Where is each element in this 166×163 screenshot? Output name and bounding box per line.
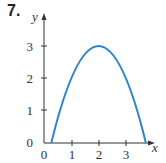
- parabola-curve: [51, 46, 146, 143]
- x-tick-label-3: 3: [123, 147, 130, 162]
- x-tick-label-2: 2: [96, 147, 103, 162]
- parabola-chart: 0 1 2 3 0 1 2 3 y x: [0, 0, 166, 163]
- y-axis-arrow-icon: [42, 13, 47, 20]
- x-tick-label-1: 1: [69, 147, 76, 162]
- y-axis-label: y: [30, 9, 38, 24]
- x-tick-label-0: 0: [41, 147, 48, 162]
- y-tick-label-1: 1: [27, 103, 34, 118]
- y-tick-label-2: 2: [27, 71, 34, 86]
- y-tick-label-3: 3: [27, 39, 34, 54]
- x-axis-label: x: [151, 140, 158, 155]
- y-tick-label-0: 0: [27, 135, 34, 150]
